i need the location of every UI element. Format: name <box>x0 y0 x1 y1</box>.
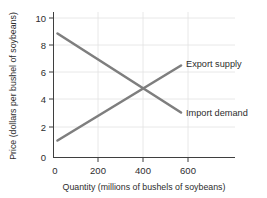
export-supply-label: Export supply <box>186 59 242 69</box>
xtick-label-400: 400 <box>135 165 151 176</box>
ytick-label-10: 10 <box>35 13 46 24</box>
y-axis-title: Price (dollars per bushel of soybeans) <box>8 12 18 160</box>
ytick-label-8: 8 <box>41 40 46 51</box>
soybean-trade-chart: 10 8 6 4 2 0 0 200 400 600 Price (dollar… <box>0 0 267 198</box>
xtick-label-600: 600 <box>180 165 196 176</box>
ytick-label-0: 0 <box>41 152 46 163</box>
ytick-label-2: 2 <box>41 122 46 133</box>
xtick-label-200: 200 <box>90 165 106 176</box>
x-axis-title: Quantity (millions of bushels of soybean… <box>63 182 226 192</box>
xtick-label-0: 0 <box>52 165 57 176</box>
ytick-label-6: 6 <box>41 67 46 78</box>
chart-figure: 10 8 6 4 2 0 0 200 400 600 Price (dollar… <box>0 0 267 198</box>
import-demand-label: Import demand <box>186 108 248 118</box>
ytick-label-4: 4 <box>41 94 46 105</box>
